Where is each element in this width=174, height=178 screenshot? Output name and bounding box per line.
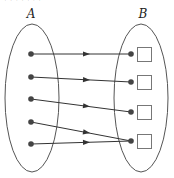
set-a-element-dot	[28, 74, 34, 80]
set-a: A	[5, 7, 59, 172]
arrow-line	[31, 99, 131, 112]
arrowhead-icon	[83, 140, 90, 145]
mapping-arrow	[31, 51, 131, 56]
set-a-element-dot	[28, 51, 34, 57]
mapping-arrows	[31, 51, 131, 145]
set-b-element	[128, 135, 151, 149]
mapping-arrow	[31, 77, 131, 82]
set-b-element-dot	[128, 79, 134, 85]
set-b-element-square	[138, 48, 152, 62]
set-b-element	[128, 106, 151, 120]
set-a-element-dot	[28, 96, 34, 102]
arrowhead-icon	[83, 51, 90, 56]
set-b-element-dot	[128, 109, 134, 115]
cropped-caption-text: · · · · · · ·	[4, 0, 41, 5]
top-cropped-text: · · · · · · ·	[4, 0, 41, 5]
set-b-element-dot	[128, 51, 134, 57]
arrowhead-icon	[83, 103, 90, 108]
set-b-element	[128, 48, 151, 62]
set-b-element-square	[138, 76, 152, 90]
set-b-label: B	[138, 7, 148, 21]
set-b-element-dot	[128, 138, 134, 144]
set-b-element-square	[138, 135, 152, 149]
arrowhead-icon	[83, 129, 90, 134]
set-a-element-dot	[28, 141, 34, 147]
set-b-element-square	[138, 106, 152, 120]
arrow-line	[31, 77, 131, 82]
set-b-element	[128, 76, 151, 90]
mapping-arrow	[31, 140, 131, 145]
set-b-ellipse	[114, 24, 168, 172]
function-mapping-diagram: · · · · · · · A B	[0, 0, 174, 178]
arrowhead-icon	[83, 77, 90, 82]
mapping-diagram-canvas: · · · · · · · A B	[0, 0, 174, 178]
set-a-element-dot	[28, 119, 34, 125]
set-b-elements	[128, 48, 151, 149]
set-a-elements	[28, 51, 34, 147]
set-a-label: A	[26, 7, 36, 21]
mapping-arrow	[31, 99, 131, 112]
arrow-line	[31, 141, 131, 144]
